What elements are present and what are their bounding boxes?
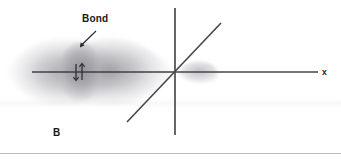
x-axis-label: x [322,67,327,77]
bottom-divider [0,153,341,154]
panel-label: B [53,127,60,138]
bond-label: Bond [82,13,108,24]
orbital-bond-diagram: Bond x B [0,0,341,159]
diagram-canvas [0,0,341,159]
